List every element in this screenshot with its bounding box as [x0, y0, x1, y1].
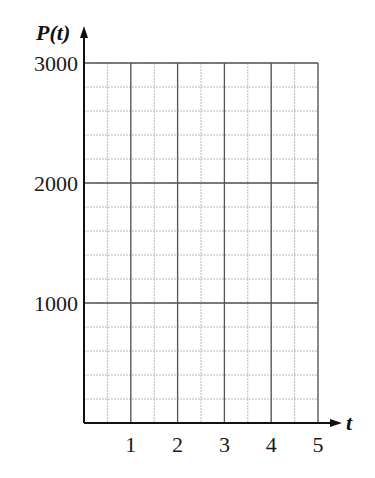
- y-axis-arrow-icon: [80, 26, 88, 38]
- x-tick-label: 5: [313, 432, 324, 457]
- x-tick-label: 3: [219, 432, 230, 457]
- chart-canvas: 12345100020003000 P(t) t: [0, 0, 375, 478]
- axes: [80, 26, 342, 427]
- y-tick-label: 1000: [34, 291, 78, 316]
- y-tick-label: 3000: [34, 51, 78, 76]
- x-tick-label: 1: [125, 432, 136, 457]
- x-axis-title: t: [346, 410, 353, 435]
- tick-labels: 12345100020003000: [34, 51, 324, 457]
- minor-grid: [84, 63, 318, 423]
- x-tick-label: 4: [266, 432, 277, 457]
- y-axis-title: P(t): [35, 20, 70, 45]
- x-axis-arrow-icon: [330, 419, 342, 427]
- x-tick-label: 2: [172, 432, 183, 457]
- y-tick-label: 2000: [34, 171, 78, 196]
